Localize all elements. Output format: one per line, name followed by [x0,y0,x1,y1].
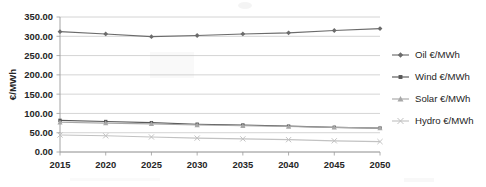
data-point [332,28,337,33]
y-tick-label: 0.00 [35,146,53,157]
x-tick-label: 2045 [324,159,345,170]
data-point [240,32,245,37]
legend-item-label: Hydro €/MWh [415,115,474,126]
line-chart: 0.0050.00100.00150.00200.00250.00300.003… [0,0,486,187]
x-tick-label: 2040 [278,159,299,170]
y-tick-label: 200.00 [24,69,53,80]
legend-item-hydro[interactable]: Hydro €/MWh [392,115,474,126]
legend-item-solar[interactable]: Solar €/MWh [392,93,470,104]
x-tick-label: 2020 [95,159,116,170]
y-tick-label: 250.00 [24,50,53,61]
y-tick-label: 150.00 [24,89,53,100]
data-point [103,32,108,37]
legend-marker-icon [399,75,403,79]
y-tick-label: 350.00 [24,11,53,22]
y-axis-title-label: €/MWh [7,69,18,101]
x-tick-label: 2025 [141,159,162,170]
legend-item-label: Solar €/MWh [415,93,470,104]
x-axis-tick-labels: 20152020202520302035204020452050 [50,159,391,170]
data-point [378,26,383,31]
axis-lines [60,17,380,152]
legend-item-oil[interactable]: Oil €/MWh [392,49,460,60]
gridlines [60,17,380,152]
x-tick-label: 2035 [232,159,253,170]
legend-item-wind[interactable]: Wind €/MWh [392,71,470,82]
data-point [195,33,200,38]
data-point [149,34,154,39]
y-axis-tick-labels: 0.0050.00100.00150.00200.00250.00300.003… [24,11,53,157]
chart-canvas: 0.0050.00100.00150.00200.00250.00300.003… [0,0,486,187]
series-line [60,29,380,37]
data-point [286,30,291,35]
data-series-layer [57,26,382,144]
x-tick-label: 2030 [187,159,208,170]
x-tick-label: 2015 [50,159,71,170]
chart-legend: Oil €/MWhWind €/MWhSolar €/MWhHydro €/MW… [392,49,474,126]
y-tick-label: 100.00 [24,108,53,119]
y-axis-title: €/MWh [7,69,18,101]
data-point [58,29,63,34]
legend-item-label: Wind €/MWh [415,71,470,82]
legend-marker-icon [398,52,404,58]
series-oil [58,26,383,39]
y-tick-label: 50.00 [30,127,53,138]
series-hydro [57,132,382,144]
legend-item-label: Oil €/MWh [415,49,460,60]
y-tick-label: 300.00 [24,31,53,42]
x-tick-label: 2050 [370,159,391,170]
